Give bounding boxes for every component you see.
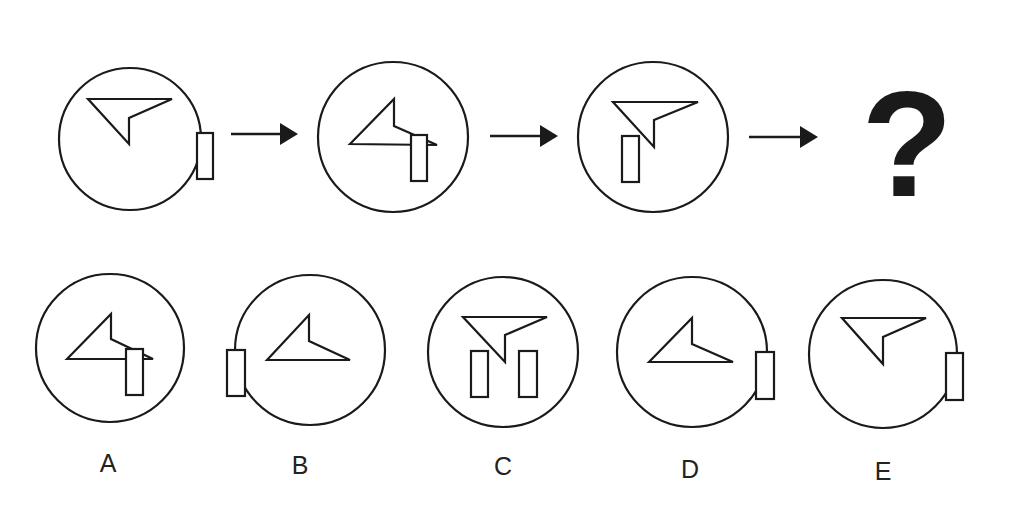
circle-outline [617, 277, 767, 427]
arrowhead-shape-icon [649, 318, 733, 362]
circle-outline [318, 62, 468, 212]
arrowhead-shape-icon [88, 99, 172, 144]
answer-options: ABCDE [36, 274, 963, 485]
option-d[interactable]: D [617, 277, 774, 483]
question-mark: ? [861, 60, 953, 228]
arrowhead-shape-icon [267, 315, 350, 360]
option-label: C [494, 452, 512, 480]
option-a[interactable]: A [36, 274, 184, 477]
rectangle-shape-icon [756, 352, 774, 399]
right-arrow-icon [749, 126, 818, 148]
puzzle-canvas: ? ABCDE [0, 0, 1014, 515]
puzzle-figure: ? ABCDE [0, 0, 1014, 515]
right-arrow-icon [231, 123, 298, 145]
right-arrow-icon [490, 125, 558, 147]
circle-outline [235, 275, 385, 425]
rectangle-shape-icon [946, 353, 963, 400]
sequence-figure-3 [578, 62, 728, 212]
rectangle-shape-icon [519, 351, 537, 397]
rectangle-shape-icon [197, 133, 213, 179]
sequence-figure-1 [59, 68, 213, 210]
sequence-figure-2 [318, 62, 468, 212]
rectangle-shape-icon [471, 351, 488, 397]
option-label: E [875, 457, 892, 485]
sequence-row [59, 62, 728, 212]
rectangle-shape-icon [126, 349, 143, 395]
option-label: D [681, 455, 699, 483]
rectangle-shape-icon [622, 136, 639, 182]
arrowhead-shape-icon [842, 318, 926, 364]
option-c[interactable]: C [428, 277, 578, 480]
circle-outline [428, 277, 578, 427]
option-label: B [292, 451, 309, 479]
option-e[interactable]: E [809, 280, 963, 485]
circle-outline [36, 274, 184, 422]
option-b[interactable]: B [227, 275, 385, 479]
option-label: A [100, 449, 117, 477]
rectangle-shape-icon [411, 135, 427, 181]
rectangle-shape-icon [227, 350, 245, 396]
